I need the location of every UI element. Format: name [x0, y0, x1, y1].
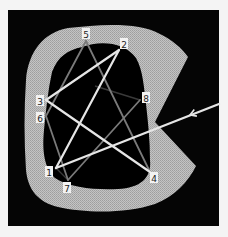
node-6: 6 [36, 112, 44, 124]
node-label: 5 [83, 30, 89, 40]
node-2: 2 [120, 38, 128, 50]
node-7: 7 [63, 182, 71, 194]
node-label: 3 [37, 97, 43, 107]
diagram-canvas: 12345678 [0, 0, 228, 237]
node-5: 5 [82, 28, 90, 40]
node-4: 4 [150, 172, 158, 184]
node-label: 6 [37, 114, 43, 124]
node-label: 4 [151, 174, 157, 184]
node-label: 7 [64, 184, 70, 194]
node-8: 8 [142, 92, 150, 104]
node-1: 1 [45, 166, 53, 178]
node-3: 3 [36, 95, 44, 107]
node-label: 8 [143, 94, 149, 104]
node-label: 1 [46, 168, 52, 178]
node-label: 2 [121, 40, 127, 50]
